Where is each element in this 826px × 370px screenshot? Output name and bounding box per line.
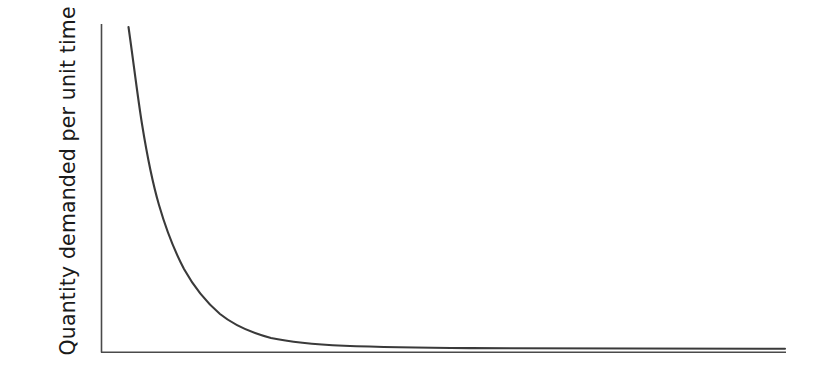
demand-curve-figure: Quantity demanded per unit time	[0, 0, 826, 370]
chart-canvas	[0, 0, 826, 370]
y-axis-label: Quantity demanded per unit time	[56, 6, 80, 355]
chart-background	[0, 0, 826, 370]
